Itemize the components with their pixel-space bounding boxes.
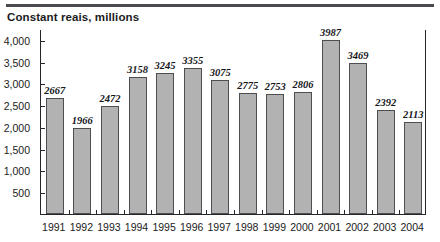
x-tick-label: 1993 <box>97 221 120 233</box>
bar-group[interactable]: 2753 <box>266 30 284 214</box>
bar-group[interactable]: 2667 <box>46 30 64 214</box>
bar-group[interactable]: 2392 <box>377 30 395 214</box>
x-tick-mark <box>96 210 97 214</box>
x-tick-mark <box>151 210 152 214</box>
bar-group[interactable]: 3355 <box>184 30 202 214</box>
x-tick-label: 1998 <box>235 221 258 233</box>
bar-value-label: 2806 <box>292 79 313 90</box>
bar-value-label: 3245 <box>155 60 176 71</box>
y-tick-mark <box>40 63 45 64</box>
x-tick-label: 1995 <box>152 221 175 233</box>
x-tick-label: 2002 <box>345 221 368 233</box>
bar-group[interactable]: 3158 <box>129 30 147 214</box>
x-tick-mark <box>179 210 180 214</box>
bar[interactable] <box>322 40 340 214</box>
x-tick-mark <box>124 210 125 214</box>
bar-value-label: 2667 <box>44 85 65 96</box>
bar-value-label: 3987 <box>320 27 341 38</box>
x-tick-label: 2003 <box>373 221 396 233</box>
y-tick-mark <box>40 84 45 85</box>
x-tick-label: 1999 <box>263 221 286 233</box>
bar[interactable] <box>266 94 284 214</box>
y-tick-mark <box>40 106 45 107</box>
bar[interactable] <box>101 106 119 214</box>
bar[interactable] <box>349 63 367 214</box>
x-tick-label: 1991 <box>42 221 65 233</box>
x-tick-mark <box>399 210 400 214</box>
bar[interactable] <box>294 92 312 214</box>
y-tick-label: 3,500 <box>4 57 30 69</box>
bars-container: 2667196624723158324533553075277527532806… <box>41 30 425 214</box>
bar[interactable] <box>156 73 174 214</box>
bar[interactable] <box>377 110 395 214</box>
bar-group[interactable]: 2806 <box>294 30 312 214</box>
x-tick-label: 2000 <box>290 221 313 233</box>
bar-value-label: 2472 <box>99 93 120 104</box>
chart-figure: Constant reais, millions 5001,0001,5002,… <box>0 0 440 242</box>
x-tick-mark <box>69 210 70 214</box>
bar[interactable] <box>73 128 91 214</box>
bar-group[interactable]: 2113 <box>404 30 422 214</box>
bar-group[interactable]: 3245 <box>156 30 174 214</box>
y-axis: 5001,0001,5002,0002,5003,0003,5004,000 <box>0 30 36 215</box>
x-tick-mark <box>372 210 373 214</box>
bar[interactable] <box>211 80 229 214</box>
bar-group[interactable]: 3987 <box>322 30 340 214</box>
y-tick-label: 3,000 <box>4 78 30 90</box>
y-tick-label: 4,000 <box>4 35 30 47</box>
x-tick-label: 1997 <box>208 221 231 233</box>
x-tick-label: 1992 <box>70 221 93 233</box>
x-tick-label: 1994 <box>125 221 148 233</box>
bar-value-label: 2775 <box>237 80 258 91</box>
bar[interactable] <box>129 77 147 214</box>
y-tick-label: 1,000 <box>4 165 30 177</box>
y-tick-label: 2,000 <box>4 122 30 134</box>
y-tick-mark <box>40 41 45 42</box>
bar[interactable] <box>404 122 422 214</box>
x-tick-mark <box>289 210 290 214</box>
bar-group[interactable]: 3075 <box>211 30 229 214</box>
bar-value-label: 2753 <box>265 81 286 92</box>
x-tick-label: 2001 <box>318 221 341 233</box>
y-tick-mark <box>40 193 45 194</box>
figure-top-rule <box>6 4 434 7</box>
bar-group[interactable]: 1966 <box>73 30 91 214</box>
plot-area: 2667196624723158324533553075277527532806… <box>40 30 426 215</box>
bar-value-label: 3075 <box>210 67 231 78</box>
y-tick-label: 1,500 <box>4 144 30 156</box>
y-tick-mark <box>40 128 45 129</box>
x-axis: 1991199219931994199519961997199819992000… <box>40 221 426 239</box>
bar[interactable] <box>239 93 257 214</box>
bar-value-label: 2113 <box>403 109 423 120</box>
bar[interactable] <box>184 68 202 214</box>
bar-value-label: 1966 <box>72 115 93 126</box>
bar-value-label: 3355 <box>182 55 203 66</box>
bar-group[interactable]: 3469 <box>349 30 367 214</box>
x-tick-label: 1996 <box>180 221 203 233</box>
y-tick-mark <box>40 150 45 151</box>
x-tick-mark <box>262 210 263 214</box>
x-tick-mark <box>206 210 207 214</box>
y-tick-label: 2,500 <box>4 100 30 112</box>
chart-title: Constant reais, millions <box>7 11 139 23</box>
bar-group[interactable]: 2775 <box>239 30 257 214</box>
bar[interactable] <box>46 98 64 214</box>
bar-group[interactable]: 2472 <box>101 30 119 214</box>
x-tick-mark <box>234 210 235 214</box>
bar-value-label: 3469 <box>348 50 369 61</box>
bar-value-label: 3158 <box>127 64 148 75</box>
bar-value-label: 2392 <box>375 97 396 108</box>
x-tick-label: 2004 <box>401 221 424 233</box>
y-tick-mark <box>40 171 45 172</box>
y-tick-label: 500 <box>12 187 30 199</box>
x-tick-mark <box>344 210 345 214</box>
x-tick-mark <box>317 210 318 214</box>
